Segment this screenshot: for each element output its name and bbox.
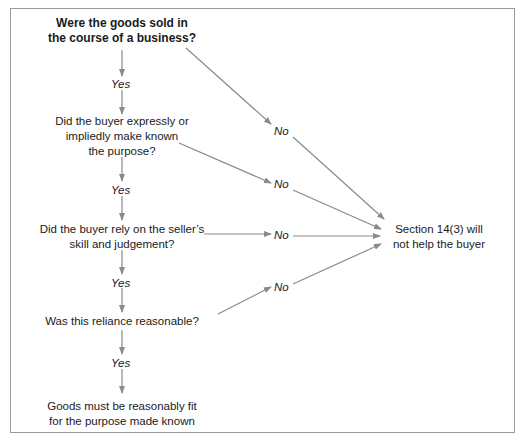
question-2: Did the buyer expressly or impliedly mak… [32, 114, 212, 159]
result-fit-line-1: Goods must be reasonably fit [32, 399, 212, 414]
yes-label-2: Yes [111, 183, 130, 197]
result-no-line-1: Section 14(3) will [384, 222, 494, 237]
result-fit-line-2: for the purpose made known [32, 414, 212, 429]
question-3-line-1: Did the buyer rely on the seller’s [22, 222, 222, 237]
arrow-no4-result [293, 244, 381, 284]
question-2-line-1: Did the buyer expressly or [32, 114, 212, 129]
question-4: Was this reliance reasonable? [27, 314, 217, 329]
question-1-line-2: the course of a business? [32, 31, 212, 46]
no-label-1: No [274, 124, 289, 138]
result-no-line-2: not help the buyer [384, 237, 494, 252]
question-2-line-3: the purpose? [32, 144, 212, 159]
arrow-q4-no [218, 287, 271, 314]
arrow-no2-result [293, 190, 381, 229]
question-2-line-2: impliedly make known [32, 129, 212, 144]
question-3: Did the buyer rely on the seller’s skill… [22, 222, 222, 252]
question-1: Were the goods sold in the course of a b… [32, 16, 212, 46]
no-label-4: No [274, 280, 289, 294]
no-label-2: No [274, 177, 289, 191]
yes-label-1: Yes [111, 77, 130, 91]
question-1-line-1: Were the goods sold in [32, 16, 212, 31]
no-label-3: No [274, 228, 289, 242]
yes-label-3: Yes [111, 276, 130, 290]
result-fit-for-purpose: Goods must be reasonably fit for the pur… [32, 399, 212, 429]
question-4-text: Was this reliance reasonable? [27, 314, 217, 329]
arrow-no1-result [293, 137, 384, 219]
arrow-q1-no [186, 48, 271, 124]
question-3-line-2: skill and judgement? [22, 237, 222, 252]
result-section-14-3: Section 14(3) will not help the buyer [384, 222, 494, 252]
yes-label-4: Yes [111, 356, 130, 370]
